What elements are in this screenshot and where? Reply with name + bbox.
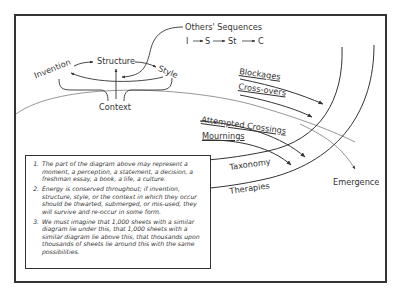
- seq-i: I: [186, 37, 188, 45]
- seq-st: St: [228, 37, 236, 45]
- seq-s: S: [205, 37, 210, 45]
- horizon-arc: [16, 90, 355, 142]
- note-item: The part of the diagram above may repres…: [41, 160, 206, 183]
- inner-arc: [190, 47, 342, 161]
- notes-box: The part of the diagram above may repres…: [25, 155, 211, 269]
- seq-c: C: [258, 37, 264, 45]
- label-structure: Structure: [97, 57, 135, 65]
- label-others-sequences: Others' Sequences: [185, 23, 262, 31]
- label-context: Context: [99, 103, 131, 111]
- note-item: We must imagine that 1,000 sheets with a…: [41, 218, 206, 256]
- label-emergence: Emergence: [333, 178, 379, 186]
- label-mournings: Mournings: [202, 132, 245, 140]
- note-item: Energy is conserved throughout; if inven…: [41, 185, 206, 215]
